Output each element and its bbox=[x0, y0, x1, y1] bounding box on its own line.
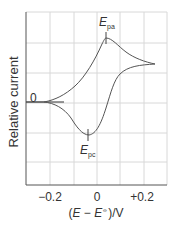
x-tick-0: 0 bbox=[94, 190, 101, 204]
xlabel-e-standard: E bbox=[94, 206, 102, 220]
grid bbox=[26, 12, 167, 185]
epc-label: Epc bbox=[80, 143, 95, 158]
epa-label: Epa bbox=[99, 15, 115, 30]
xlabel-unit: )/V bbox=[108, 206, 123, 220]
xlabel-minus: − bbox=[80, 206, 94, 220]
reverse-sweep-curve bbox=[44, 64, 155, 135]
forward-sweep-curve bbox=[26, 38, 155, 102]
xlabel-e: E bbox=[72, 206, 80, 220]
zero-label: 0 bbox=[30, 91, 37, 105]
y-axis-label: Relative current bbox=[6, 56, 21, 147]
epa-main: E bbox=[99, 15, 107, 29]
epa-sub: pa bbox=[107, 23, 115, 30]
x-tick-pos02: +0.2 bbox=[130, 190, 154, 204]
epc-main: E bbox=[80, 143, 88, 157]
epc-sub: pc bbox=[88, 151, 95, 158]
x-tick-neg02: −0.2 bbox=[38, 190, 62, 204]
x-axis-label: (E − E⦵)/V bbox=[68, 206, 123, 220]
